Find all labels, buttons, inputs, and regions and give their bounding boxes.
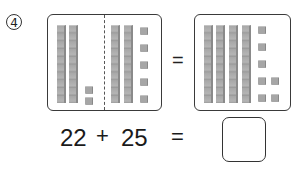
- unit-cube-icon: [258, 43, 266, 51]
- equation-equals: =: [171, 126, 184, 148]
- unit-cube-icon: [140, 44, 148, 52]
- addend-1: 22: [60, 126, 87, 150]
- unit-cube-icon: [140, 95, 148, 103]
- ten-rod-icon: [111, 25, 120, 103]
- plus-operator: +: [96, 125, 109, 147]
- unit-cube-icon: [85, 86, 93, 94]
- unit-cube-icon: [140, 61, 148, 69]
- unit-cube-icon: [140, 78, 148, 86]
- unit-cube-icon: [258, 94, 266, 102]
- ten-rod-icon: [216, 25, 225, 103]
- problem-number-circle: 4: [6, 14, 22, 30]
- ten-rod-icon: [229, 25, 238, 103]
- unit-cube-icon: [140, 27, 148, 35]
- ten-rod-icon: [242, 25, 251, 103]
- unit-cube-icon: [258, 26, 266, 34]
- unit-cube-icon: [271, 94, 279, 102]
- ten-rod-icon: [57, 25, 66, 103]
- addend-2: 25: [121, 126, 148, 150]
- ten-rod-icon: [69, 25, 78, 103]
- unit-cube-icon: [85, 97, 93, 105]
- ten-rod-icon: [124, 25, 133, 103]
- unit-cube-icon: [271, 77, 279, 85]
- answer-input-box[interactable]: [222, 117, 266, 162]
- equals-sign: =: [172, 50, 184, 70]
- ten-rod-icon: [204, 25, 213, 103]
- unit-cube-icon: [258, 77, 266, 85]
- dashed-divider: [104, 15, 105, 110]
- unit-cube-icon: [258, 60, 266, 68]
